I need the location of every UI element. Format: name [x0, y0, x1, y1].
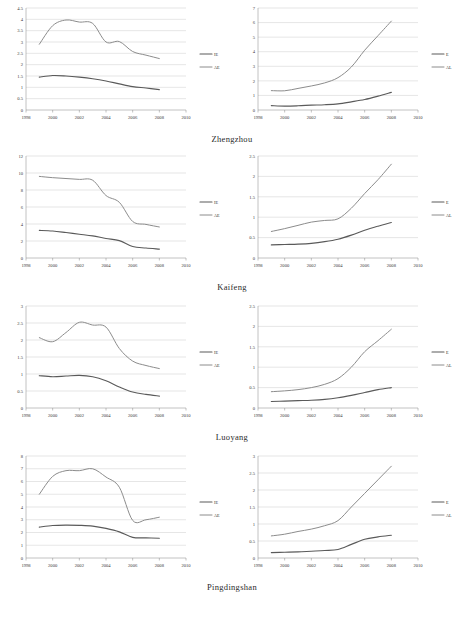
y-tick-label: 3 [21, 304, 24, 309]
x-tick-label: 2000 [280, 413, 290, 418]
x-tick-label: 2004 [333, 413, 343, 418]
chart-cell-right: 00.511.522.53199820002002200420062008201… [232, 448, 464, 580]
x-axis-ticks: 1998200020022004200620082010 [253, 408, 423, 418]
y-tick-label: 2 [253, 174, 256, 179]
series-line-AE [39, 322, 159, 369]
line-chart-luoyang-right: 00.511.522.51998200020022004200620082010… [232, 298, 464, 430]
y-tick-label: 3 [253, 454, 256, 459]
y-tick-label: 2 [253, 324, 256, 329]
y-axis-gridlines: 01234567 [253, 6, 418, 113]
chart-caption-pingdingshan: Pingdingshan [0, 580, 464, 592]
y-tick-label: 0 [253, 108, 256, 113]
y-tick-label: 3 [253, 64, 256, 69]
x-axis-ticks: 1998200020022004200620082010 [253, 258, 423, 268]
x-tick-label: 2004 [333, 115, 343, 120]
x-tick-label: 2006 [360, 563, 370, 568]
y-tick-label: 1 [21, 543, 24, 548]
legend-label-AE: AE [214, 363, 220, 368]
x-tick-label: 2008 [155, 413, 165, 418]
y-tick-label: 2 [21, 530, 24, 535]
x-tick-label: 2004 [101, 115, 111, 120]
y-tick-label: 0.5 [249, 385, 255, 390]
chart-row-pingdingshan: 0123456781998200020022004200620082010IEA… [0, 448, 464, 598]
x-axis-ticks: 1998200020022004200620082010 [21, 110, 191, 120]
x-tick-label: 1998 [21, 263, 31, 268]
line-chart-luoyang-left: 00.511.522.53199820002002200420062008201… [0, 298, 232, 430]
x-tick-label: 2008 [387, 563, 397, 568]
y-tick-label: 5 [253, 35, 256, 40]
y-axis-gridlines: 00.511.522.5 [249, 304, 418, 411]
legend-label-IE: IE [214, 500, 218, 505]
chart-caption-zhengzhou: Zhengzhou [0, 132, 464, 144]
x-tick-label: 2010 [413, 263, 423, 268]
y-tick-label: 2 [21, 239, 24, 244]
y-tick-label: 0.5 [17, 96, 23, 101]
x-tick-label: 2008 [155, 115, 165, 120]
y-tick-label: 8 [21, 188, 24, 193]
y-tick-label: 5 [21, 492, 24, 497]
y-tick-label: 3 [21, 517, 24, 522]
y-tick-label: 4 [21, 17, 24, 22]
chart-rows-container: 00.511.522.533.544.519982000200220042006… [0, 0, 464, 598]
x-tick-label: 2004 [101, 563, 111, 568]
x-tick-label: 2006 [128, 413, 138, 418]
x-tick-label: 2000 [48, 263, 58, 268]
y-tick-label: 7 [253, 6, 256, 11]
chart-row-zhengzhou: 00.511.522.533.544.519982000200220042006… [0, 0, 464, 148]
y-tick-label: 1.5 [17, 355, 23, 360]
legend-label-IE: IE [214, 52, 218, 57]
legend-label-E: E [446, 52, 449, 57]
y-tick-label: 6 [21, 479, 24, 484]
x-tick-label: 2006 [360, 413, 370, 418]
x-tick-label: 1998 [253, 263, 263, 268]
y-tick-label: 2.5 [17, 51, 23, 56]
x-tick-label: 2010 [181, 563, 191, 568]
chart-caption-luoyang: Luoyang [0, 430, 464, 442]
y-tick-label: 1 [253, 365, 256, 370]
x-axis-ticks: 1998200020022004200620082010 [253, 558, 423, 568]
legend: EAL [432, 500, 452, 518]
y-tick-label: 4 [21, 505, 24, 510]
legend: EAL [432, 350, 452, 368]
x-tick-label: 2008 [155, 263, 165, 268]
y-tick-label: 1 [253, 93, 256, 98]
legend-label-E: E [446, 350, 449, 355]
legend-label-AE: AE [214, 213, 220, 218]
y-axis-gridlines: 00.511.522.53 [249, 454, 418, 561]
series-line-E [271, 388, 391, 402]
y-tick-label: 0.5 [17, 389, 23, 394]
legend-label-AL: AL [446, 513, 452, 518]
line-chart-zhengzhou-right: 012345671998200020022004200620082010EAL [232, 0, 464, 132]
x-axis-ticks: 1998200020022004200620082010 [21, 258, 191, 268]
line-chart-zhengzhou-left: 00.511.522.533.544.519982000200220042006… [0, 0, 232, 132]
x-axis-ticks: 1998200020022004200620082010 [21, 558, 191, 568]
x-axis-ticks: 1998200020022004200620082010 [253, 110, 423, 120]
legend-label-AL: AL [446, 213, 452, 218]
x-tick-label: 2010 [181, 413, 191, 418]
legend-label-IE: IE [214, 350, 218, 355]
chart-cell-left: 00.511.522.533.544.519982000200220042006… [0, 0, 232, 132]
x-tick-label: 2006 [360, 263, 370, 268]
x-tick-label: 2004 [101, 263, 111, 268]
x-tick-label: 2002 [75, 115, 85, 120]
x-tick-label: 2006 [360, 115, 370, 120]
y-tick-label: 10 [18, 171, 23, 176]
series-line-AL [271, 164, 391, 231]
y-tick-label: 2.5 [249, 154, 255, 159]
x-axis-ticks: 1998200020022004200620082010 [21, 408, 191, 418]
series-line-E [271, 223, 391, 245]
line-chart-pingdingshan-right: 00.511.522.53199820002002200420062008201… [232, 448, 464, 580]
x-tick-label: 2010 [181, 263, 191, 268]
y-tick-label: 8 [21, 454, 24, 459]
y-tick-label: 3 [21, 40, 24, 45]
y-axis-gridlines: 00.511.522.53 [17, 304, 186, 411]
x-tick-label: 2002 [75, 563, 85, 568]
series-line-IE [39, 525, 159, 538]
y-tick-label: 2.5 [249, 304, 255, 309]
y-tick-label: 6 [253, 20, 256, 25]
x-tick-label: 1998 [253, 413, 263, 418]
x-tick-label: 2006 [128, 263, 138, 268]
x-tick-label: 2010 [413, 115, 423, 120]
legend-label-E: E [446, 500, 449, 505]
legend-label-AE: AE [214, 513, 220, 518]
